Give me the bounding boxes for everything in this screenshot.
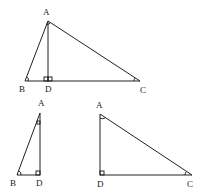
label-b: B: [10, 178, 16, 188]
label-d: D: [97, 179, 104, 189]
angle-mark-a: [100, 118, 105, 119]
right-angle-mark-d: [100, 171, 104, 175]
right-angle-mark-left: [44, 77, 48, 81]
triangle-adc: [100, 114, 192, 175]
label-c: C: [140, 85, 146, 95]
angle-mark-b: [19, 171, 21, 175]
label-a: A: [96, 100, 103, 110]
angle-mark-b: [27, 77, 28, 81]
right-angle-mark-right: [48, 77, 52, 81]
angle-mark-a: [37, 121, 40, 124]
label-c: C: [187, 179, 193, 189]
label-d: D: [36, 178, 43, 188]
bottom-right-triangle: A D C: [96, 100, 193, 189]
label-a: A: [43, 7, 50, 17]
label-a: A: [38, 98, 45, 108]
right-angle-mark-d: [36, 171, 40, 175]
triangle-abc: [25, 21, 140, 81]
label-d: D: [45, 84, 52, 94]
top-triangle: A B D C: [19, 7, 146, 95]
label-b: B: [19, 84, 25, 94]
geometry-figure: A B D C A B D A D C: [0, 0, 202, 193]
bottom-left-triangle: A B D: [10, 98, 45, 188]
